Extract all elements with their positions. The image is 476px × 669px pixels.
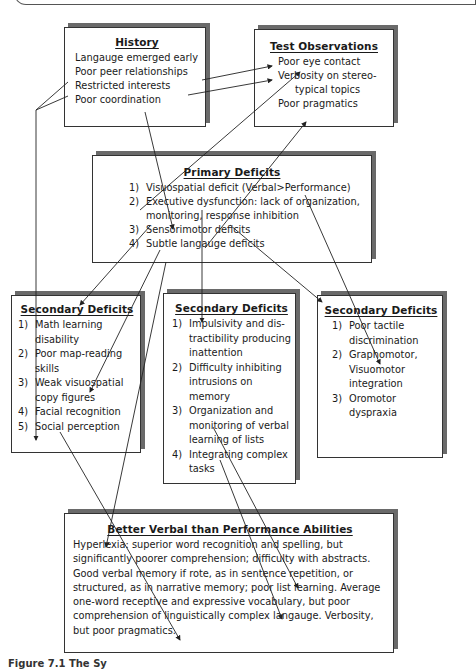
secondary-deficits-middle-box: Secondary Deficits 1)Impulsivity and dis… xyxy=(163,293,296,484)
test-observation-item: Verbosity on stereo- xyxy=(273,69,387,83)
primary-deficit-item: 3)Sensorimotor deficits xyxy=(129,223,363,237)
history-item: Poor peer relationships xyxy=(75,65,199,79)
secondary-deficits-left-title: Secondary Deficits xyxy=(18,303,136,315)
test-observation-item: Poor eye contact xyxy=(273,55,387,69)
primary-deficit-item: 4)Subtle langauge deficits xyxy=(129,237,363,251)
secondary-deficit-item: 3)Organization and monitoring of verbal … xyxy=(172,404,291,448)
secondary-deficit-item: 2)Graphomotor, Visuomotor integration xyxy=(332,348,438,392)
primary-deficit-item: 1)Visuospatial deficit (Verbal>Performan… xyxy=(129,181,363,195)
history-title: History xyxy=(75,36,199,48)
test-observation-item: typical topics xyxy=(273,83,387,97)
secondary-deficits-right-title: Secondary Deficits xyxy=(324,304,438,316)
secondary-deficit-item: 1)Impulsivity and dis-tractibility produ… xyxy=(172,317,291,361)
secondary-deficits-middle-title: Secondary Deficits xyxy=(172,302,291,314)
test-observation-item: Poor pragmatics xyxy=(273,97,387,111)
secondary-deficits-middle-list: 1)Impulsivity and dis-tractibility produ… xyxy=(172,317,291,477)
history-item: Poor coordination xyxy=(75,93,199,107)
secondary-deficit-item: 4)Facial recognition xyxy=(18,405,136,420)
better-verbal-title: Better Verbal than Performance Abilities xyxy=(73,523,387,535)
secondary-deficit-item: 2)Poor map-reading skills xyxy=(18,347,136,376)
secondary-deficit-item: 5)Social perception xyxy=(18,420,136,435)
primary-deficits-title: Primary Deficits xyxy=(101,166,363,178)
primary-deficits-box: Primary Deficits 1)Visuospatial deficit … xyxy=(92,155,372,263)
secondary-deficits-right-list: 1)Poor tactile discrimination 2)Graphomo… xyxy=(332,319,438,421)
top-border-rule xyxy=(14,0,476,5)
better-verbal-text: Hyperlexia: superior word recognition an… xyxy=(73,538,387,638)
secondary-deficit-item: 2)Difficulty inhibiting intrusions on me… xyxy=(172,361,291,405)
primary-deficits-list: 1)Visuospatial deficit (Verbal>Performan… xyxy=(129,181,363,251)
secondary-deficits-right-box: Secondary Deficits 1)Poor tactile discri… xyxy=(317,295,443,458)
secondary-deficit-item: 3)Oromotor dyspraxia xyxy=(332,392,438,421)
history-item: Langauge emerged early xyxy=(75,51,199,65)
secondary-deficit-item: 1)Math learning disability xyxy=(18,318,136,347)
better-verbal-box: Better Verbal than Performance Abilities… xyxy=(64,513,394,653)
secondary-deficit-item: 3)Weak visuospatial copy figures xyxy=(18,376,136,405)
secondary-deficit-item: 1)Poor tactile discrimination xyxy=(332,319,438,348)
test-observations-title: Test Observations xyxy=(261,40,387,52)
primary-deficit-item: 2)Executive dysfunction: lack of organiz… xyxy=(129,195,363,223)
history-item: Restricted interests xyxy=(75,79,199,93)
test-observations-box: Test Observations Poor eye contact Verbo… xyxy=(254,29,394,127)
secondary-deficit-item: 4)Integrating complex tasks xyxy=(172,448,291,477)
history-box: History Langauge emerged early Poor peer… xyxy=(64,27,206,127)
secondary-deficits-left-box: Secondary Deficits 1)Math learning disab… xyxy=(11,295,141,453)
figure-caption: Figure 7.1 The Sy xyxy=(8,658,107,669)
secondary-deficits-left-list: 1)Math learning disability 2)Poor map-re… xyxy=(18,318,136,434)
